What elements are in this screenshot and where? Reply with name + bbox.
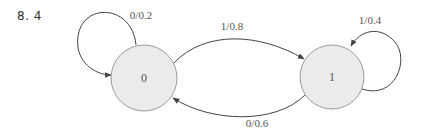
edge-label-1-to-1: 1/0.4: [359, 14, 382, 26]
edge-label-0-to-0: 0/0.2: [130, 9, 152, 21]
edge-1-to-0: [173, 95, 305, 117]
edge-label-0-to-1: 1/0.8: [221, 20, 244, 32]
state-label-0: 0: [141, 71, 147, 85]
edge-label-1-to-0: 0/0.6: [246, 117, 269, 129]
state-diagram: 0 1 0/0.2 1/0.8 1/0.4 0/0.6: [0, 0, 424, 131]
state-label-1: 1: [329, 70, 335, 84]
edge-0-to-1: [174, 39, 304, 63]
